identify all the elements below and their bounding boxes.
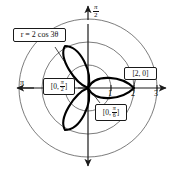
equation-label: r = 2 cos 3θ [13,28,66,42]
fraction-denominator: 6 [112,112,117,119]
fraction-pi-over-2-axis: π 2 [93,4,99,18]
tick-label-3: 3 [154,90,158,98]
polar-plot-canvas [0,0,172,174]
tick-label-2: 2 [131,90,135,98]
axis-label-pi-over-2: π 2 [92,2,99,18]
fraction-pi-over-6: π 6 [112,106,117,118]
polar-rose-figure: r = 2 cos 3θ [0, π 2 ] [2, 0] [0, π 6 ] … [0,0,172,174]
point-label-close: ] [117,109,120,117]
tick-label-1: 1 [108,90,112,98]
point-label-text: [2, 0] [132,70,148,78]
point-label-close: ] [65,83,68,91]
point-label-2-0: [2, 0] [124,67,157,80]
point-label-0-pi-over-6: [0, π 6 ] [95,104,127,121]
point-label-open: [0, [103,109,111,117]
tick-label-1-text: 1 [108,89,112,98]
axis-label-pi-text: π [20,78,24,87]
tick-label-3-text: 3 [154,89,158,98]
fraction-denominator: 2 [93,11,99,19]
axis-label-pi: π [20,79,24,87]
fraction-pi-over-2: π 2 [60,80,65,92]
fraction-denominator: 2 [60,86,65,93]
point-label-open: [0, [51,83,59,91]
fraction-numerator: π [93,4,99,11]
tick-label-2-text: 2 [131,89,135,98]
point-label-0-pi-over-2: [0, π 2 ] [43,78,75,95]
equation-text: r = 2 cos 3θ [21,31,59,39]
